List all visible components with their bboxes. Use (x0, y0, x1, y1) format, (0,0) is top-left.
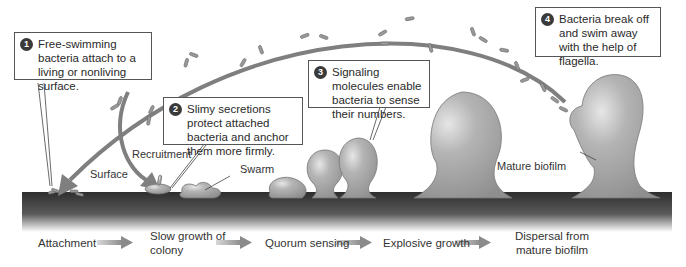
callout-2: 2 Slimy secretions protect attached bact… (163, 97, 303, 145)
callout-4: 4 Bacteria break off and swim away with … (535, 7, 661, 57)
callout-1: 1 Free-swimming bacteria attach to a liv… (14, 32, 152, 80)
callout-text: Slimy secretions protect attached bacter… (187, 102, 296, 158)
callout-text: Signaling molecules enable bacteria to s… (332, 65, 423, 121)
surface-label: Surface (90, 168, 128, 180)
step-number-badge: 1 (20, 38, 33, 51)
stage-slow-growth: Slow growth of colony (150, 229, 228, 257)
step-number-badge: 2 (169, 103, 182, 116)
callout-3: 3 Signaling molecules enable bacteria to… (308, 60, 430, 108)
callout-text: Bacteria break off and swim away with th… (559, 12, 654, 68)
dispersal-biofilm (570, 75, 660, 198)
callout-text: Free-swimming bacteria attach to a livin… (38, 37, 145, 93)
swarm-label: Swarm (240, 163, 274, 175)
stage-dispersal: Dispersal from mature biofilm (508, 229, 596, 257)
mature-biofilm-label: Mature biofilm (497, 160, 566, 172)
recruitment-label: Recruitment (132, 148, 191, 160)
stage-quorum-sensing: Quorum sensing (265, 236, 349, 250)
stage-attachment: Attachment (38, 236, 96, 250)
step-number-badge: 4 (541, 13, 554, 26)
stage-explosive-growth: Explosive growth (383, 236, 470, 250)
step-number-badge: 3 (314, 66, 327, 79)
